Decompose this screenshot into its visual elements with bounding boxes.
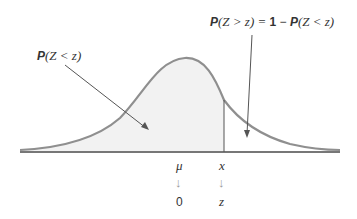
mu-down-arrow-icon: ↓	[175, 175, 182, 190]
z-label: z	[219, 194, 224, 210]
x-label: x	[219, 158, 225, 174]
mu-label: μ	[176, 158, 183, 174]
right-probability-label: P(Z > z) = 1 − P(Z < z)	[210, 14, 334, 30]
x-down-arrow-icon: ↓	[218, 175, 225, 190]
left-pointer-line	[65, 65, 146, 128]
shaded-region	[20, 58, 224, 151]
left-probability-label: P(Z < z)	[37, 48, 81, 64]
zero-label: 0	[176, 195, 183, 209]
right-pointer-arrowhead-icon	[244, 130, 250, 138]
right-pointer-line	[247, 35, 252, 134]
